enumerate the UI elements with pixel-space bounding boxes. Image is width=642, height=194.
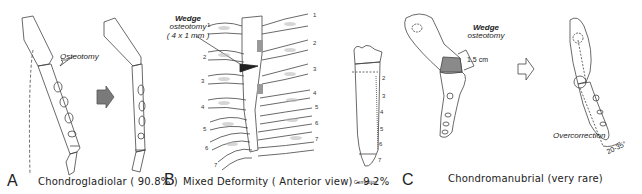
correction-number-5: 5 (380, 126, 383, 132)
rib-number-left-7: 7 (214, 162, 217, 168)
panel-b-correction-sternum (352, 45, 382, 166)
caption-b: Mixed Deformity ( Anterior view) - 9.2% (183, 176, 389, 187)
wedge-size-label-b: ( 4 x 1 mm ) (166, 31, 210, 40)
rib-number-right-1: 1 (313, 12, 316, 18)
panel-letter-a: A (7, 172, 18, 190)
osteotomy-label-b: osteotomy (166, 22, 210, 31)
caption-c: Chondromanubrial (very rare) (448, 173, 603, 184)
measurement-label-c: 1.5 cm (467, 56, 488, 63)
rib-number-left-2: 2 (203, 54, 206, 60)
osteotomy-label-a: Osteotomy (60, 52, 99, 61)
panel-letter-b: B (164, 171, 175, 189)
caption-a: Chondrogladiolar ( 90.8% ) (38, 176, 178, 187)
overcorrection-label: Overcorrection (553, 131, 605, 140)
osteotomy-label-c: osteotomy (462, 31, 510, 40)
rib-number-right-4: 4 (313, 90, 316, 96)
rib-number-left-3: 3 (201, 78, 204, 84)
rib-number-left-5: 5 (203, 126, 206, 132)
rib-number-right-7: 7 (315, 136, 318, 142)
transition-arrow-a (97, 86, 114, 108)
rib-number-left-1: 1 (207, 22, 210, 28)
rib-number-right-6: 6 (315, 120, 318, 126)
figure-drawings (0, 0, 642, 194)
correction-number-3: 3 (382, 93, 385, 99)
correction-number-4: 4 (380, 109, 383, 115)
correction-number-7: 7 (378, 157, 381, 163)
panel-b-ribcage (196, 14, 314, 170)
rib-number-left-6: 6 (205, 145, 208, 151)
rib-number-right-2: 2 (313, 40, 316, 46)
sternal-deformity-figure: Osteotomy A Chondrogladiolar ( 90.8% ) W… (0, 0, 642, 194)
rib-number-right-5: 5 (315, 104, 318, 110)
panel-letter-c: C (402, 171, 414, 189)
correction-number-6: 6 (379, 141, 382, 147)
rib-number-right-3: 3 (313, 66, 316, 72)
panel-c-sternum-after (570, 18, 620, 147)
correction-number-2: 2 (382, 75, 385, 81)
rib-number-left-4: 4 (201, 104, 204, 110)
transition-arrow-c (518, 58, 534, 80)
panel-a-sternum-before (22, 16, 80, 175)
